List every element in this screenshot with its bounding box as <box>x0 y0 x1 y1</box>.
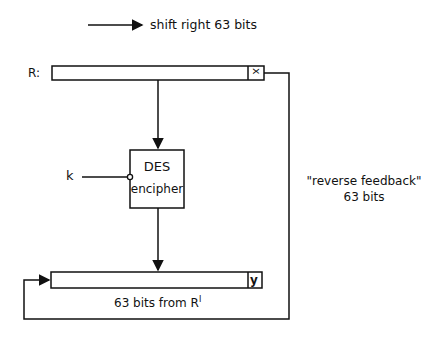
output-caption: 63 bits from RI <box>114 293 201 310</box>
encipher-label: encipher <box>130 182 184 196</box>
register-r-cell-x: x <box>249 68 263 75</box>
key-label: k <box>66 169 74 183</box>
register-r-label: R: <box>28 66 40 80</box>
feedback-label: "reverse feedback" <box>296 174 432 188</box>
register-r <box>52 66 264 80</box>
feedback-bits-label: 63 bits <box>296 190 432 204</box>
register-out-cell-y: y <box>250 273 258 287</box>
shift-label: shift right 63 bits <box>150 18 257 32</box>
key-input-circle <box>127 174 132 179</box>
des-label: DES <box>130 160 184 174</box>
register-output <box>51 272 262 288</box>
diagram-canvas <box>0 0 432 342</box>
